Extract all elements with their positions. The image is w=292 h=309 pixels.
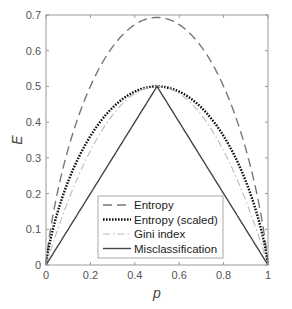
y-tick-label: 0.7 <box>26 9 41 21</box>
y-tick-label: 0.6 <box>26 45 41 57</box>
x-tick-label: 0.6 <box>172 269 187 281</box>
x-tick-label: 0.2 <box>83 269 98 281</box>
x-axis-label: p <box>152 285 161 301</box>
chart: 00.20.40.60.8100.10.20.30.40.50.60.7 p E… <box>0 0 292 309</box>
legend-label: Misclassification <box>134 243 217 255</box>
y-tick-label: 0.3 <box>26 152 41 164</box>
legend-label: Gini index <box>134 228 185 240</box>
y-tick-label: 0 <box>35 259 41 271</box>
y-tick-label: 0.2 <box>26 188 41 200</box>
x-tick-label: 0.4 <box>127 269 142 281</box>
y-tick-label: 0.5 <box>26 80 41 92</box>
legend-label: Entropy <box>134 199 174 211</box>
x-tick-label: 1 <box>265 269 271 281</box>
legend-label: Entropy (scaled) <box>134 214 218 226</box>
legend: EntropyEntropy (scaled)Gini indexMisclas… <box>98 196 223 258</box>
y-axis-label: E <box>9 135 25 145</box>
x-tick-label: 0.8 <box>216 269 231 281</box>
x-tick-label: 0 <box>43 269 49 281</box>
y-tick-label: 0.4 <box>26 116 41 128</box>
y-tick-label: 0.1 <box>26 223 41 235</box>
